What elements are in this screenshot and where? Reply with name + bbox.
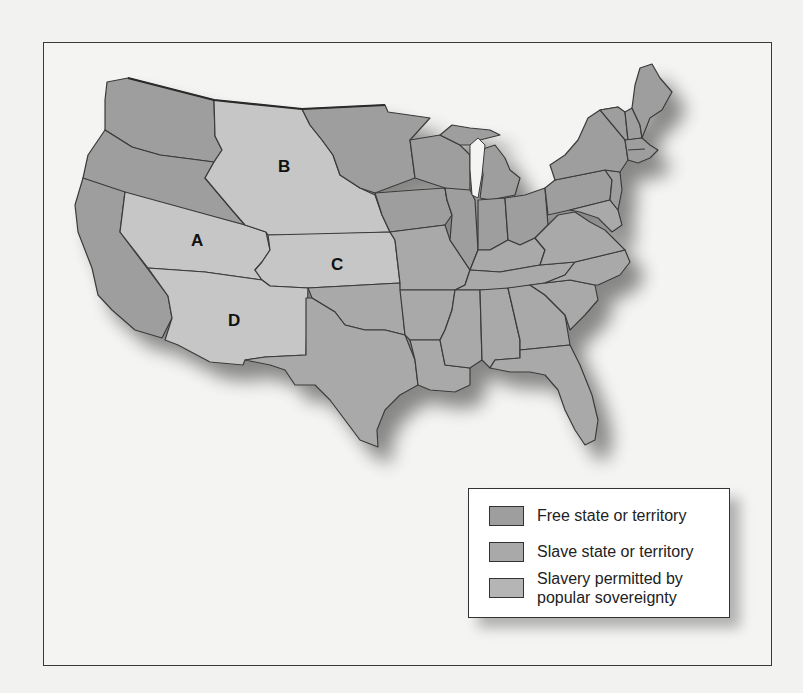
legend-item-slave: Slave state or territory	[489, 542, 694, 562]
region-michigan-lower	[480, 145, 520, 200]
legend-swatch-free	[489, 506, 524, 526]
legend-label-slave: Slave state or territory	[537, 542, 694, 561]
legend-label-free: Free state or territory	[537, 506, 686, 525]
legend-label-line-2: popular sovereignty	[537, 588, 683, 607]
legend-label-line-1: Slavery permitted by	[537, 569, 683, 588]
region-florida	[490, 345, 598, 445]
legend-item-free: Free state or territory	[489, 506, 686, 526]
legend-swatch-popular-sovereignty	[489, 578, 524, 598]
region-southern-new-england	[625, 138, 658, 163]
map-legend: Free state or territory Slave state or t…	[468, 488, 730, 618]
legend-swatch-slave	[489, 542, 524, 562]
legend-label-popular-sovereignty: Slavery permitted by popular sovereignty	[537, 569, 683, 607]
region-label-c: C	[331, 255, 343, 274]
region-label-a: A	[191, 231, 203, 250]
region-label-d: D	[228, 311, 240, 330]
region-kansas-territory-c	[255, 232, 400, 288]
legend-item-popular-sovereignty: Slavery permitted by popular sovereignty	[489, 569, 683, 607]
region-label-b: B	[278, 157, 290, 176]
